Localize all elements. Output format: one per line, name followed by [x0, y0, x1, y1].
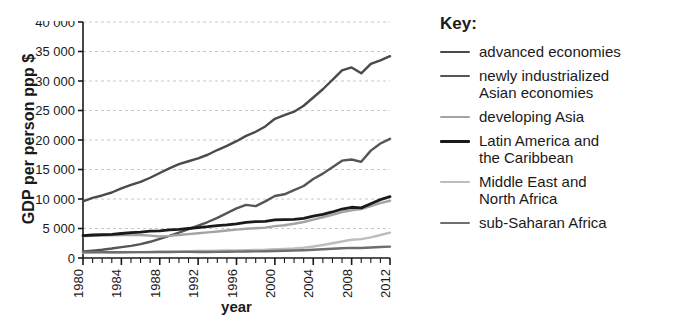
chart-page: GDP per person ppp $ year 05 00010 00015… — [0, 0, 675, 321]
x-tick-label: 2012 — [378, 269, 393, 298]
legend-item[interactable]: Latin America and the Caribbean — [436, 132, 675, 166]
series-line — [83, 56, 390, 201]
y-tick-label: 0 — [68, 251, 75, 266]
x-tick-label: 1984 — [109, 269, 124, 298]
legend-label: Middle East and North Africa — [479, 173, 587, 207]
y-tick-label: 5 000 — [42, 221, 75, 236]
legend-swatch-icon — [440, 181, 470, 183]
x-tick-label: 1992 — [186, 269, 201, 298]
y-tick-label: 10 000 — [35, 192, 75, 207]
gdp-line-chart: GDP per person ppp $ year 05 00010 00015… — [0, 0, 420, 321]
top-mask — [0, 0, 420, 21]
y-tick-label: 25 000 — [35, 103, 75, 118]
legend-swatch-icon — [440, 140, 470, 143]
legend-swatch-icon — [440, 75, 470, 77]
x-tick-label: 1980 — [71, 269, 86, 298]
legend-item[interactable]: newly industrialized Asian economies — [436, 67, 675, 101]
legend-swatch-icon — [440, 116, 470, 118]
legend-title: Key: — [440, 14, 675, 34]
x-tick-label: 2000 — [263, 269, 278, 298]
legend-item[interactable]: sub-Saharan Africa — [436, 214, 675, 231]
x-tick-label: 2008 — [340, 269, 355, 298]
y-tick-label: 35 000 — [35, 44, 75, 59]
x-tick-label: 2004 — [301, 269, 316, 298]
plot-svg: 05 00010 00015 00020 00025 00030 00035 0… — [0, 0, 420, 321]
y-tick-label: 15 000 — [35, 162, 75, 177]
legend: Key: advanced economiesnewly industriali… — [436, 14, 675, 238]
legend-item[interactable]: Middle East and North Africa — [436, 173, 675, 207]
series-line — [83, 201, 390, 237]
x-tick-label: 1996 — [225, 269, 240, 298]
legend-label: sub-Saharan Africa — [479, 214, 607, 231]
x-tick-label: 1988 — [148, 269, 163, 298]
legend-swatch-icon — [440, 222, 470, 224]
legend-label: developing Asia — [479, 108, 584, 125]
y-tick-label: 20 000 — [35, 133, 75, 148]
legend-items: advanced economiesnewly industrialized A… — [436, 43, 675, 231]
legend-item[interactable]: advanced economies — [436, 43, 675, 60]
y-tick-label: 30 000 — [35, 74, 75, 89]
legend-label: newly industrialized Asian economies — [479, 67, 609, 101]
legend-label: advanced economies — [479, 43, 621, 60]
legend-label: Latin America and the Caribbean — [479, 132, 599, 166]
legend-item[interactable]: developing Asia — [436, 108, 675, 125]
legend-swatch-icon — [440, 51, 470, 53]
